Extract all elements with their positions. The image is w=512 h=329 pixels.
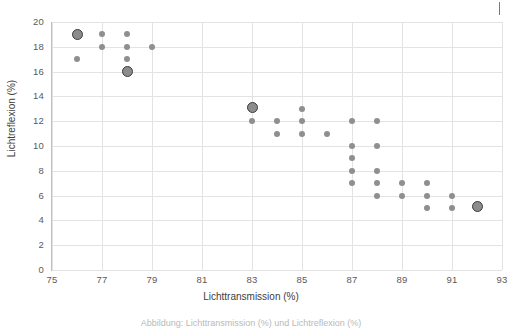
data-point [349,143,355,149]
figure-caption-text: Abbildung: Lichttransmission (%) und Lic… [0,318,502,329]
data-point [374,143,380,149]
x-tick-label: 93 [485,274,512,285]
x-tick-label: 85 [285,274,319,285]
y-tick-label: 18 [0,41,44,52]
grid-line-horizontal [52,220,502,221]
data-point [349,180,355,186]
data-point [274,118,280,124]
grid-line-horizontal [52,270,502,271]
x-tick-label: 81 [185,274,219,285]
data-point-highlighted [72,29,83,40]
data-point [449,205,455,211]
grid-line-horizontal [52,171,502,172]
x-tick-label: 77 [85,274,119,285]
y-tick-label: 0 [0,264,44,275]
data-point [374,180,380,186]
y-axis-title: Lichtreflexion (%) [6,54,17,184]
grid-line-horizontal [52,72,502,73]
grid-line-horizontal [52,196,502,197]
x-tick-label: 89 [385,274,419,285]
y-tick-label: 2 [0,239,44,250]
x-axis-title: Lichttransmission (%) [0,291,502,302]
data-point [424,180,430,186]
data-point [124,56,130,62]
data-point [124,44,130,50]
x-tick-label: 83 [235,274,269,285]
y-tick-label: 20 [0,16,44,27]
data-point [349,168,355,174]
data-point [374,168,380,174]
plot-area [52,22,502,270]
x-tick-label: 75 [35,274,69,285]
data-point [449,193,455,199]
data-point [374,118,380,124]
x-tick-label: 91 [435,274,469,285]
grid-line-horizontal [52,22,502,23]
data-point [299,106,305,112]
data-point-highlighted [247,102,258,113]
data-point [324,131,330,137]
data-point [299,131,305,137]
data-point [74,56,80,62]
data-point [299,118,305,124]
page-edge-mark [499,2,500,15]
data-point [374,193,380,199]
data-point [274,131,280,137]
grid-line-vertical [502,22,503,270]
grid-line-horizontal [52,96,502,97]
grid-line-horizontal [52,47,502,48]
data-point [124,31,130,37]
figure-caption-clipped: Abbildung: Lichttransmission (%) und Lic… [0,318,502,329]
grid-line-horizontal [52,245,502,246]
data-point [399,180,405,186]
x-tick-label: 87 [335,274,369,285]
data-point [99,31,105,37]
data-point [99,44,105,50]
data-point [149,44,155,50]
x-tick-label: 79 [135,274,169,285]
data-point-highlighted [472,201,483,212]
grid-line-horizontal [52,146,502,147]
data-point [399,193,405,199]
data-point [424,193,430,199]
data-point [349,155,355,161]
y-tick-label: 6 [0,190,44,201]
y-tick-label: 4 [0,214,44,225]
data-point [249,118,255,124]
data-point-highlighted [122,66,133,77]
data-point [424,205,430,211]
data-point [349,118,355,124]
